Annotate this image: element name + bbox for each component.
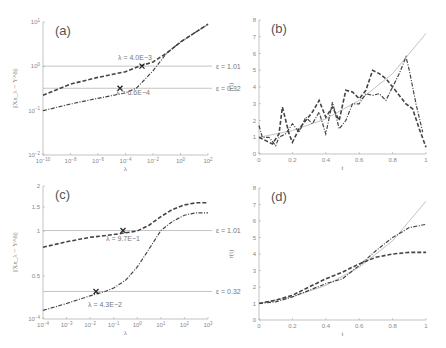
y-axis-label: r(t)	[227, 82, 235, 92]
svg-text:1.5: 1.5	[32, 204, 41, 210]
y-axis-label: ||Xx_λ − Y^δ||	[11, 68, 19, 108]
svg-text:0.8: 0.8	[388, 323, 397, 329]
svg-text:102: 102	[180, 321, 190, 329]
svg-text:2: 2	[253, 284, 257, 290]
panel-c: 10−410−310−210−11001011021030.511.5210−4…	[11, 183, 241, 337]
svg-text:1: 1	[37, 228, 41, 234]
svg-text:0.4: 0.4	[322, 323, 331, 329]
panel-label: (c)	[55, 187, 70, 202]
panel-b: 00.20.40.60.81012345678tr(t)(b)	[227, 17, 428, 172]
svg-text:6: 6	[253, 51, 257, 57]
svg-text:7: 7	[253, 34, 257, 40]
svg-text:0.2: 0.2	[288, 323, 297, 329]
svg-text:10−4: 10−4	[120, 157, 132, 165]
x-axis-label: t	[342, 164, 344, 172]
svg-text:0.2: 0.2	[288, 157, 297, 163]
panel-d: 00.20.40.60.81012345678tr(t)(d)	[227, 185, 428, 338]
svg-text:1: 1	[253, 301, 257, 307]
svg-text:2: 2	[253, 118, 257, 124]
svg-text:3: 3	[253, 268, 257, 274]
svg-text:0.6: 0.6	[355, 323, 364, 329]
svg-text:0.8: 0.8	[388, 157, 397, 163]
svg-text:101: 101	[156, 321, 166, 329]
figure: 10−1010−810−610−410−210010210−210−110010…	[0, 0, 446, 348]
svg-text:10−2: 10−2	[28, 151, 40, 159]
svg-text:0: 0	[257, 157, 261, 163]
svg-text:10−1: 10−1	[28, 106, 40, 114]
svg-text:3: 3	[253, 101, 257, 107]
series-true	[259, 201, 426, 303]
svg-text:100: 100	[176, 157, 186, 165]
x-axis-label: t	[342, 330, 344, 338]
panel-label: (a)	[55, 23, 71, 38]
epsilon-label: ε = 1.01	[216, 227, 241, 234]
svg-text:7: 7	[253, 202, 257, 208]
x-axis-label: λ	[124, 329, 128, 337]
svg-text:10−3: 10−3	[61, 321, 73, 329]
svg-text:5: 5	[253, 67, 257, 73]
svg-text:100: 100	[31, 62, 41, 70]
series-dashed	[259, 70, 426, 147]
svg-text:8: 8	[253, 185, 257, 191]
y-axis-label: ||Xx_λ − Y^δ||	[11, 232, 19, 272]
panel-label: (b)	[271, 21, 287, 36]
svg-text:0: 0	[253, 317, 257, 323]
lambda-annotation: λ = 9.7E−1	[106, 235, 140, 242]
lambda-annotation: λ = 4.3E−2	[88, 301, 122, 308]
svg-text:103: 103	[203, 321, 213, 329]
svg-text:101: 101	[31, 18, 41, 26]
series-dash-dot	[43, 213, 208, 311]
svg-text:10−4: 10−4	[37, 321, 49, 329]
svg-text:10−10: 10−10	[36, 157, 51, 165]
svg-text:8: 8	[253, 17, 257, 23]
series-dash-dot	[259, 224, 426, 303]
panel-label: (d)	[271, 189, 287, 204]
svg-text:100: 100	[133, 321, 143, 329]
svg-text:102: 102	[203, 157, 213, 165]
svg-text:0: 0	[257, 323, 261, 329]
svg-text:10−8: 10−8	[65, 157, 77, 165]
svg-text:10−4: 10−4	[28, 315, 40, 323]
svg-text:6: 6	[253, 218, 257, 224]
svg-text:0.6: 0.6	[355, 157, 364, 163]
lambda-annotation: λ = 6.6E−4	[116, 89, 150, 96]
svg-text:1: 1	[253, 134, 257, 140]
series-true	[259, 33, 426, 137]
epsilon-label: ε = 0.32	[216, 288, 241, 295]
panel-a: 10−1010−810−610−410−210010210−210−110010…	[11, 18, 241, 174]
y-axis-label: r(t)	[227, 249, 235, 259]
svg-text:0.4: 0.4	[322, 157, 331, 163]
svg-text:4: 4	[253, 84, 257, 90]
svg-text:10−6: 10−6	[92, 157, 104, 165]
svg-text:5: 5	[253, 235, 257, 241]
svg-text:10−2: 10−2	[147, 157, 159, 165]
lambda-annotation: λ = 4.0E−3	[118, 54, 152, 61]
svg-text:0.5: 0.5	[32, 273, 41, 279]
svg-text:1: 1	[424, 323, 428, 329]
x-axis-label: λ	[124, 165, 128, 173]
epsilon-label: ε = 1.01	[216, 63, 241, 70]
svg-text:4: 4	[253, 251, 257, 257]
svg-text:10−2: 10−2	[84, 321, 96, 329]
svg-text:1: 1	[424, 157, 428, 163]
svg-text:0: 0	[253, 151, 257, 157]
svg-text:10−1: 10−1	[108, 321, 120, 329]
svg-text:2: 2	[37, 183, 41, 189]
series-dashed	[259, 252, 426, 303]
